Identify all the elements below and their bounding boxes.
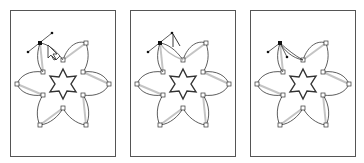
panel-1-flower <box>15 32 111 127</box>
panel-3-flower <box>255 41 351 127</box>
panel-2-flower <box>135 32 231 127</box>
flower-diagram <box>0 0 364 163</box>
direction-select-cursor-icon <box>173 34 180 47</box>
selected-anchor-1 <box>38 41 42 45</box>
convert-point-cursor-icon <box>48 45 60 60</box>
